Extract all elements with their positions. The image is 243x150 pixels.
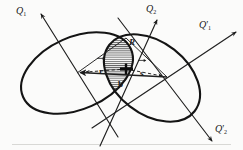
axis-label-q2p-subscript: 2	[224, 129, 227, 135]
axis-label-q2: Q2	[146, 4, 156, 15]
axis-label-q1-subscript: 1	[23, 11, 26, 17]
s-vector-overarrow	[137, 58, 146, 62]
s-vector-label-text: s	[140, 69, 144, 78]
r-vector-label-text: r	[99, 67, 103, 76]
axis-label-q1p-subscript: 1	[208, 25, 211, 31]
axis-label-q1-prime: Q′1	[199, 20, 211, 31]
axis-label-q1: Q1	[16, 6, 26, 17]
s-vector-label: s	[140, 62, 144, 80]
figure-root: Q1 Q2 Q′1 Q′2 R r s b	[0, 0, 243, 150]
axis-label-q2-prime: Q′2	[215, 124, 227, 135]
r-vector-label: r	[99, 60, 103, 78]
axis-label-q2-subscript: 2	[153, 9, 156, 15]
overlap-region-label: R	[129, 38, 135, 47]
b-vector-label: b	[118, 80, 123, 89]
r-vector-overarrow	[97, 56, 106, 60]
